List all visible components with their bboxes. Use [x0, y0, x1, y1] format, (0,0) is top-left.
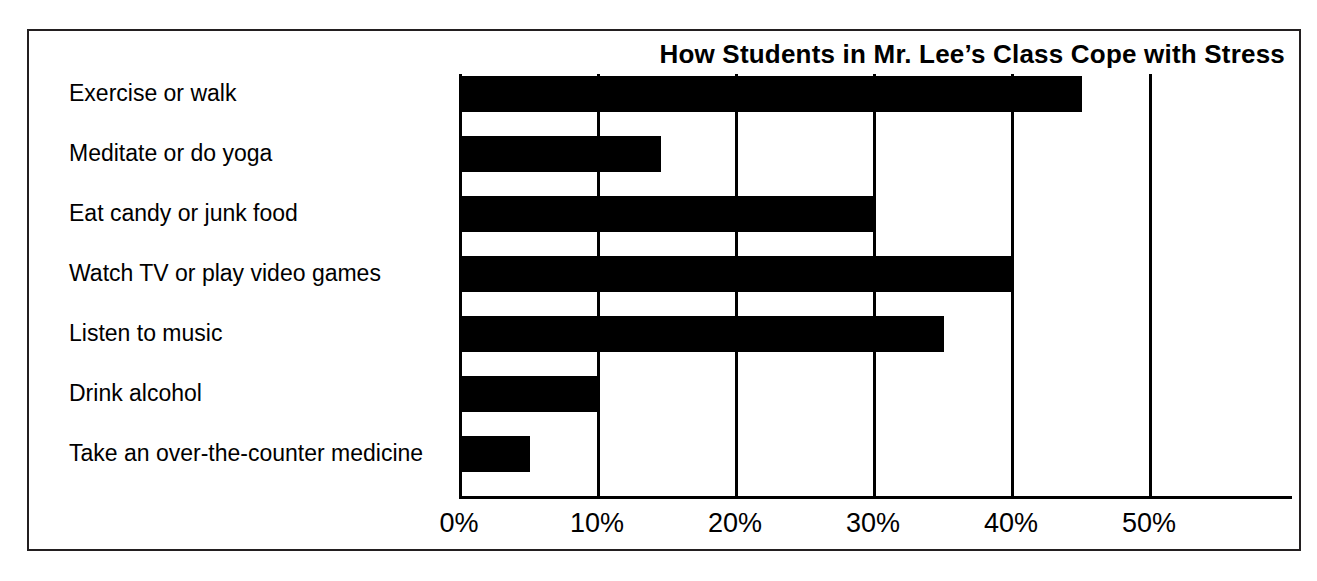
category-label: Eat candy or junk food — [69, 199, 459, 228]
gridline-50% — [1149, 74, 1152, 499]
bar — [461, 316, 944, 352]
bar — [461, 436, 530, 472]
chart-title: How Students in Mr. Lee’s Class Cope wit… — [229, 39, 1285, 70]
chart-frame: How Students in Mr. Lee’s Class Cope wit… — [27, 29, 1301, 551]
x-tick-label: 10% — [570, 508, 624, 539]
x-tick-label: 20% — [708, 508, 762, 539]
x-tick-label: 0% — [439, 508, 478, 539]
chart-screenshot: How Students in Mr. Lee’s Class Cope wit… — [0, 0, 1317, 581]
category-label: Take an over-the-counter medicine — [69, 439, 459, 468]
bar — [461, 376, 599, 412]
bar — [461, 136, 661, 172]
x-tick-label: 30% — [846, 508, 900, 539]
category-label: Meditate or do yoga — [69, 139, 459, 168]
bar — [461, 256, 1013, 292]
category-label: Listen to music — [69, 319, 459, 348]
bar — [461, 196, 875, 232]
bar — [461, 76, 1082, 112]
x-tick-label: 50% — [1122, 508, 1176, 539]
category-label: Exercise or walk — [69, 79, 459, 108]
x-tick-label: 40% — [984, 508, 1038, 539]
plot-area: 0%10%20%30%40%50% — [459, 74, 1292, 499]
category-label: Drink alcohol — [69, 379, 459, 408]
category-label: Watch TV or play video games — [69, 259, 459, 288]
